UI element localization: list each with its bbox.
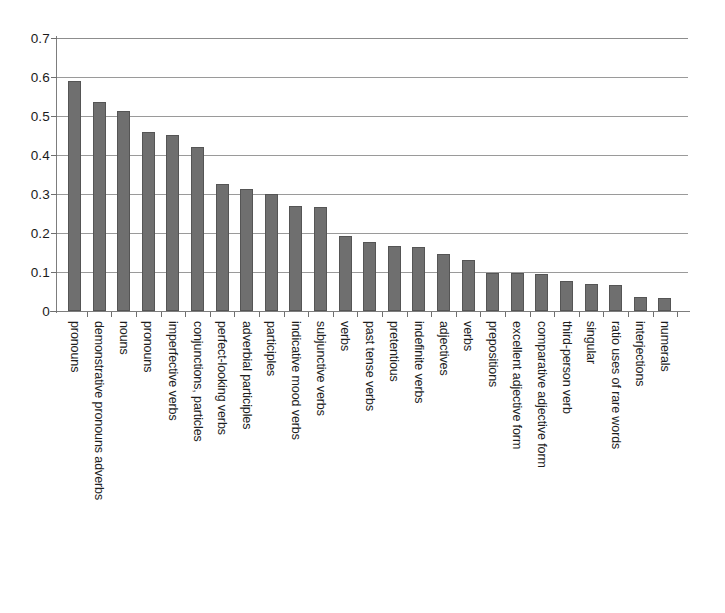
- x-axis-tick-mark: [603, 312, 604, 317]
- x-axis-tick-mark: [407, 312, 408, 317]
- y-axis-tick-mark: [51, 116, 57, 117]
- y-axis-tick-mark: [51, 194, 57, 195]
- x-axis-tick-mark: [530, 312, 531, 317]
- x-axis-tick-mark: [161, 312, 162, 317]
- x-axis-tick-mark: [333, 312, 334, 317]
- x-axis-tick-label: adjectives: [437, 321, 450, 376]
- y-axis-tick-mark: [51, 311, 57, 312]
- x-axis-tick-mark: [579, 312, 580, 317]
- x-axis-tick-label: past tense verbs: [363, 321, 376, 411]
- x-axis-tick-label: prepositions: [486, 321, 499, 387]
- x-axis-tick-mark: [210, 312, 211, 317]
- x-axis-tick-mark: [259, 312, 260, 317]
- x-axis-tick-mark: [431, 312, 432, 317]
- x-axis-tick-label: interjections: [634, 321, 647, 386]
- x-axis-tick-label: verbs: [462, 321, 475, 351]
- x-axis-tick-label: excellent adjective form: [511, 321, 524, 449]
- x-axis-tick-label: verbs: [339, 321, 352, 351]
- x-axis-tick-label: numerals: [659, 321, 672, 372]
- x-axis-tick-label: imperfective verbs: [167, 321, 180, 421]
- x-axis-tick-label: indicative mood verbs: [290, 321, 303, 440]
- x-axis-tick-mark: [653, 312, 654, 317]
- y-axis-tick-mark: [51, 38, 57, 39]
- y-axis-tick-mark: [51, 272, 57, 273]
- x-axis-tick-label: pronouns: [142, 321, 155, 372]
- x-axis-tick-mark: [111, 312, 112, 317]
- x-axis-tick-label: nouns: [117, 321, 130, 355]
- y-axis-tick-mark: [51, 233, 57, 234]
- x-axis-tick-label: conjunctions, particles: [191, 321, 204, 442]
- bar-chart: 00.10.20.30.40.50.60.7 pronounsdemonstra…: [0, 0, 725, 613]
- x-axis-tick-label: perfect-looking verbs: [216, 321, 229, 435]
- x-axis-tick-mark: [456, 312, 457, 317]
- x-axis-tick-mark: [308, 312, 309, 317]
- x-axis-tick-label: indefinite verbs: [413, 321, 426, 403]
- x-axis-tick-mark: [382, 312, 383, 317]
- x-axis-tick-label: pretentious: [388, 321, 401, 382]
- x-axis-tick-label: subjunctive verbs: [314, 321, 327, 416]
- x-axis-tick-mark: [505, 312, 506, 317]
- x-axis-tick-mark: [480, 312, 481, 317]
- x-axis-tick-label: participles: [265, 321, 278, 376]
- x-axis-tick-mark: [87, 312, 88, 317]
- x-axis-tick-mark: [628, 312, 629, 317]
- x-axis-tick-label: singular: [585, 321, 598, 364]
- x-axis-tick-mark: [234, 312, 235, 317]
- x-axis-labels: pronounsdemonstrative pronouns adverbsno…: [0, 0, 725, 613]
- x-axis-tick-label: pronouns: [68, 321, 81, 372]
- x-axis-tick-label: third-person verb: [560, 321, 573, 414]
- y-axis-tick-mark: [51, 155, 57, 156]
- x-axis-tick-mark: [357, 312, 358, 317]
- x-axis-tick-mark: [554, 312, 555, 317]
- x-axis-tick-label: adverbial participles: [240, 321, 253, 429]
- x-axis-tick-label: comparative adjective form: [536, 321, 549, 468]
- x-axis-tick-label: ratio uses of rare words: [609, 321, 622, 449]
- x-axis-tick-mark: [185, 312, 186, 317]
- x-axis-tick-mark: [284, 312, 285, 317]
- x-axis-tick-mark: [677, 312, 678, 317]
- x-axis-tick-mark: [136, 312, 137, 317]
- y-axis-tick-mark: [51, 77, 57, 78]
- x-axis-tick-label: demonstrative pronouns adverbs: [93, 321, 106, 500]
